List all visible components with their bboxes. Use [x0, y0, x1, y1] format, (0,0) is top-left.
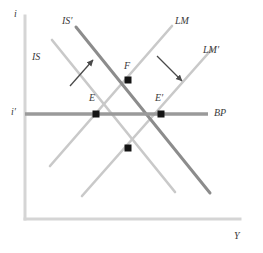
- curves-group: [25, 26, 212, 196]
- point-label-F: F: [124, 61, 130, 71]
- is-shift-arrow: [70, 60, 93, 86]
- curve-IS-prime: [76, 27, 210, 193]
- curve-label-LM-prime: LM′: [203, 45, 219, 55]
- is-lm-bp-diagram: i Y i′ IS IS′ LM LM′ BP E E′ F: [0, 0, 263, 253]
- y-axis-label: i: [14, 9, 17, 19]
- point-label-E-prime: E′: [155, 93, 163, 103]
- point-E: [93, 111, 100, 118]
- curve-IS: [52, 40, 175, 192]
- curve-label-LM: LM: [175, 16, 189, 26]
- curve-label-IS: IS: [32, 52, 40, 62]
- curve-label-IS-prime: IS′: [62, 16, 73, 26]
- point-E-prime: [158, 111, 165, 118]
- y-tick-label-i-prime: i′: [11, 107, 16, 117]
- x-axis-label: Y: [234, 231, 240, 241]
- curve-LM: [50, 26, 172, 166]
- point-F: [125, 77, 132, 84]
- curve-LM-prime: [82, 49, 212, 196]
- point-label-E: E: [89, 93, 95, 103]
- lm-shift-arrow: [157, 56, 182, 81]
- curve-label-BP: BP: [214, 108, 226, 118]
- point-G: [125, 145, 132, 152]
- diagram-canvas: [0, 0, 263, 253]
